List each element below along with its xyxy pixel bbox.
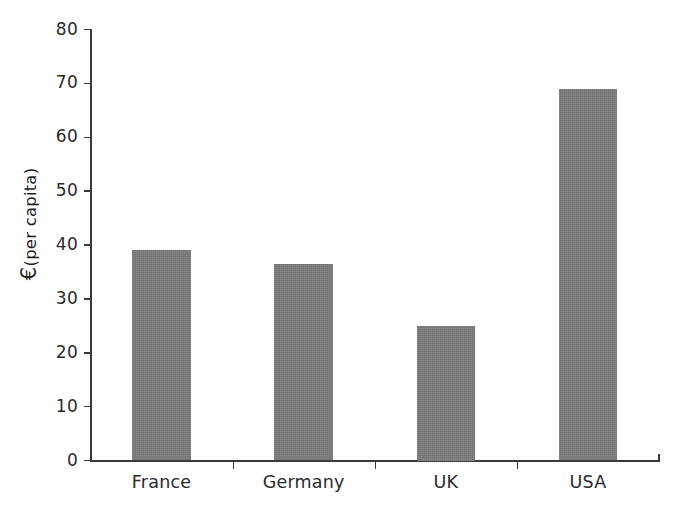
x-axis-end-cap (658, 454, 660, 462)
y-tick-label-text: 10 (56, 396, 78, 416)
x-axis-label-usa: USA (508, 472, 668, 492)
y-tick-mark (84, 460, 91, 462)
x-tick-mark (233, 461, 235, 469)
y-tick-mark (84, 406, 91, 408)
bar-chart: €(per capita) 01020304050607080 FranceGe… (0, 0, 678, 518)
x-axis-label-uk: UK (366, 472, 526, 492)
y-tick-mark (84, 244, 91, 246)
y-tick-mark (84, 298, 91, 300)
y-axis-qualifier: (per capita) (21, 168, 40, 267)
bar-usa (559, 89, 618, 461)
y-tick-label-text: 30 (56, 288, 78, 308)
x-tick-mark (375, 461, 377, 469)
y-tick-label-text: 40 (56, 234, 78, 254)
y-tick-label-text: 0 (67, 450, 78, 470)
bar-france (132, 250, 191, 460)
y-tick-mark (84, 190, 91, 192)
bar-uk (417, 326, 476, 461)
y-tick-label-text: 20 (56, 342, 78, 362)
y-axis-title: €(per capita) (17, 99, 41, 349)
y-axis-title-container: €(per capita) (0, 0, 56, 518)
y-axis-currency-symbol: € (17, 266, 41, 280)
bar-germany (274, 264, 333, 461)
y-tick-label-text: 60 (56, 126, 78, 146)
y-tick-label-text: 80 (56, 19, 78, 39)
y-tick-label-text: 50 (56, 180, 78, 200)
x-tick-mark (517, 461, 519, 469)
x-axis-label-germany: Germany (224, 472, 384, 492)
y-tick-mark (84, 137, 91, 139)
y-tick-mark (84, 29, 91, 31)
y-tick-mark (84, 83, 91, 85)
y-tick-mark (84, 352, 91, 354)
x-axis-label-france: France (82, 472, 242, 492)
y-tick-label-text: 70 (56, 72, 78, 92)
